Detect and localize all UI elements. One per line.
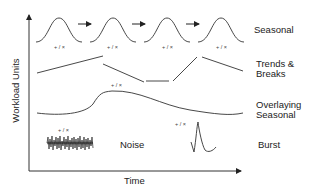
operator-label: + / × xyxy=(58,127,69,133)
overlaying-seasonal-curve xyxy=(37,91,243,114)
x-axis-label: Time xyxy=(124,176,145,186)
label-burst: Burst xyxy=(258,140,280,150)
operator-label: + / × xyxy=(111,82,122,88)
operator-label: + / × xyxy=(162,44,173,50)
label-noise: Noise xyxy=(120,140,144,150)
noise-signal xyxy=(47,136,93,150)
operator-label: + / × xyxy=(54,44,65,50)
label-trends-breaks: Trends & Breaks xyxy=(256,59,294,79)
y-axis-label: Workload Units xyxy=(10,56,21,126)
operator-label: + / × xyxy=(216,44,227,50)
operator-label: + / × xyxy=(175,121,186,127)
burst-curve xyxy=(191,122,216,152)
seasonal-curves xyxy=(36,18,244,42)
label-seasonal: Seasonal xyxy=(254,25,294,35)
label-overlaying-seasonal: Overlaying Seasonal xyxy=(256,100,301,120)
operator-label: + / × xyxy=(107,44,118,50)
trends-breaks-lines xyxy=(37,56,243,82)
